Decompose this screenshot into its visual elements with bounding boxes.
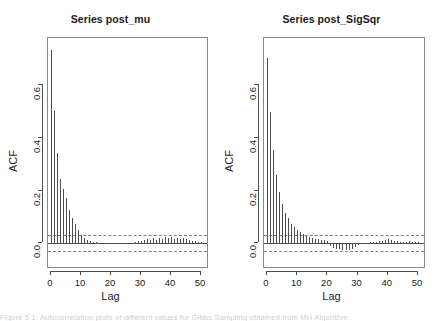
acf-bar <box>300 232 301 243</box>
acf-bar <box>282 204 283 243</box>
acf-bar <box>72 218 73 244</box>
x-axis-tick <box>296 271 297 275</box>
y-axis-label-right: ACF <box>223 146 235 176</box>
y-axis-tick-label: 0.2 <box>31 189 42 209</box>
acf-bar <box>54 111 55 243</box>
x-axis-tick-label: 40 <box>157 277 183 288</box>
acf-bar <box>294 227 295 243</box>
panel-title-left: Series post_mu <box>0 13 221 25</box>
x-axis-tick-label: 30 <box>344 277 370 288</box>
y-axis-tick-label: 0.0 <box>247 242 258 262</box>
figure-caption-partial: Figure 5.1: Autocorrelation plots of dif… <box>0 311 443 321</box>
x-axis-tick-label: 30 <box>127 277 153 288</box>
acf-figure: Series post_mu ACF 0.00.20.40.6 01020304… <box>0 0 443 321</box>
acf-bar <box>291 224 292 243</box>
acf-bar <box>288 218 289 243</box>
y-axis-line <box>42 84 43 242</box>
acf-bar <box>346 243 347 250</box>
acf-bar <box>207 243 208 244</box>
acf-panel-post-sigsqr: Series post_SigSqr ACF 0.00.20.40.6 0102… <box>221 0 442 305</box>
y-axis-line <box>258 84 259 242</box>
x-axis-tick-label: 20 <box>97 277 123 288</box>
x-axis-tick <box>266 271 267 275</box>
acf-bar <box>267 58 268 244</box>
x-axis-tick-label: 50 <box>404 277 430 288</box>
zero-baseline <box>48 243 207 244</box>
x-axis-tick-label: 10 <box>283 277 309 288</box>
acf-panel-post-mu: Series post_mu ACF 0.00.20.40.6 01020304… <box>0 0 221 305</box>
acf-bar <box>424 243 425 244</box>
x-axis-tick-label: 10 <box>67 277 93 288</box>
y-axis-tick-label: 0.4 <box>31 137 42 157</box>
y-axis-tick-label: 0.0 <box>31 242 42 262</box>
x-axis-tick <box>387 271 388 275</box>
acf-bar <box>306 236 307 244</box>
x-axis-tick <box>80 271 81 275</box>
x-axis-tick-label: 0 <box>37 277 63 288</box>
y-axis-label-left: ACF <box>7 146 19 176</box>
acf-bar <box>63 189 64 243</box>
x-axis-tick-label: 0 <box>253 277 279 288</box>
acf-bar <box>57 153 58 243</box>
panel-title-right: Series post_SigSqr <box>221 13 442 25</box>
acf-bar <box>60 179 61 243</box>
y-axis-tick-label: 0.6 <box>31 84 42 104</box>
y-axis-tick-label: 0.6 <box>247 84 258 104</box>
x-axis-tick <box>417 271 418 275</box>
acf-bar <box>273 150 274 243</box>
x-axis-tick <box>50 271 51 275</box>
x-axis-tick <box>326 271 327 275</box>
acf-bar <box>66 198 67 244</box>
x-axis-tick <box>200 271 201 275</box>
acf-bar <box>270 112 271 243</box>
x-axis-tick <box>110 271 111 275</box>
confidence-band-lower <box>48 251 207 252</box>
acf-bar <box>297 230 298 244</box>
y-axis-tick-label: 0.2 <box>247 189 258 209</box>
acf-bar <box>285 213 286 244</box>
x-axis-tick-label: 50 <box>187 277 213 288</box>
plot-area-right <box>263 37 425 268</box>
x-axis-tick <box>140 271 141 275</box>
confidence-band-lower <box>264 251 424 252</box>
acf-bar <box>81 235 82 244</box>
x-axis-label-right: Lag <box>221 290 442 302</box>
x-axis-line <box>50 271 200 272</box>
acf-bar <box>69 210 70 244</box>
x-axis-tick-label: 40 <box>374 277 400 288</box>
x-axis-label-left: Lag <box>0 290 221 302</box>
x-axis-tick <box>170 271 171 275</box>
acf-bar <box>51 50 52 243</box>
acf-bar <box>78 230 79 243</box>
y-axis-tick-label: 0.4 <box>247 137 258 157</box>
acf-bar <box>276 175 277 243</box>
x-axis-line <box>266 271 417 272</box>
plot-area-left <box>47 37 208 268</box>
x-axis-tick <box>357 271 358 275</box>
zero-baseline <box>264 243 424 244</box>
acf-bar <box>75 224 76 243</box>
x-axis-tick-label: 20 <box>313 277 339 288</box>
acf-bar <box>303 234 304 243</box>
acf-bar <box>279 192 280 244</box>
